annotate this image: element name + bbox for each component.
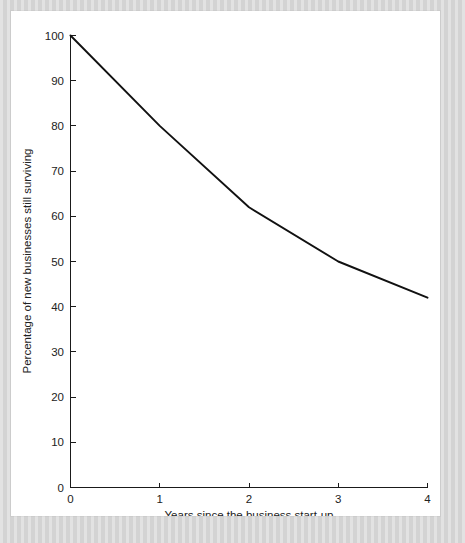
- y-tick-label: 80: [51, 120, 64, 132]
- x-tick-label: 0: [67, 493, 73, 505]
- x-tick-label: 3: [335, 493, 341, 505]
- x-tick-marks: [71, 483, 428, 488]
- y-tick-label: 10: [51, 436, 64, 448]
- figure-root: 100 90 80 70 60 50 40 30 20 10 0 0 1 2 3…: [0, 0, 465, 543]
- chart-panel: 100 90 80 70 60 50 40 30 20 10 0 0 1 2 3…: [11, 11, 440, 516]
- data-series-line: [71, 36, 428, 298]
- y-tick-labels: 100 90 80 70 60 50 40 30 20 10 0: [45, 30, 64, 494]
- y-tick-label: 100: [45, 30, 64, 42]
- y-axis-title: Percentage of new businesses still survi…: [21, 148, 33, 373]
- y-tick-label: 70: [51, 165, 64, 177]
- y-tick-label: 60: [51, 210, 64, 222]
- x-tick-label: 1: [157, 493, 163, 505]
- y-tick-label: 20: [51, 391, 64, 403]
- x-tick-label: 4: [424, 493, 431, 505]
- x-tick-labels: 0 1 2 3 4: [67, 493, 431, 505]
- x-axis-title: Years since the business start-up: [165, 509, 334, 516]
- y-tick-label: 0: [58, 482, 64, 494]
- y-tick-marks: [71, 36, 76, 488]
- line-chart: 100 90 80 70 60 50 40 30 20 10 0 0 1 2 3…: [11, 11, 440, 516]
- y-tick-label: 40: [51, 301, 64, 313]
- x-tick-label: 2: [246, 493, 252, 505]
- y-tick-label: 90: [51, 75, 64, 87]
- y-tick-label: 50: [51, 256, 64, 268]
- y-tick-label: 30: [51, 346, 64, 358]
